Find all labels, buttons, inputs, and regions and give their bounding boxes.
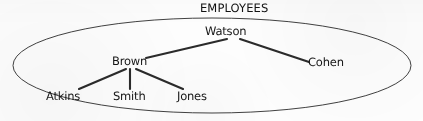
node-label-brown: Brown [112,56,147,68]
node-label-smith: Smith [113,91,146,103]
node-label-cohen: Cohen [308,57,344,69]
node-label-watson: Watson [205,26,246,38]
edge-brown-atkins [79,69,126,89]
employee-hierarchy-diagram: EMPLOYEES Watson Brown Cohen Atkins Smit… [0,0,423,121]
node-label-jones: Jones [177,91,207,103]
edge-brown-jones [136,69,183,89]
diagram-title: EMPLOYEES [200,3,268,15]
edge-watson-brown [146,39,227,58]
node-label-atkins: Atkins [46,91,80,103]
edge-watson-cohen [240,39,309,62]
